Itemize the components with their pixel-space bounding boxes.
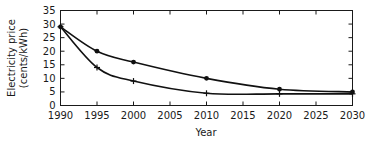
- x-tick-label: 2020: [267, 110, 292, 121]
- data-point-circle-marker: [204, 76, 209, 81]
- y-tick-label: 35: [43, 5, 56, 16]
- x-axis-title-label: Year: [194, 127, 217, 138]
- x-tick-label: 2015: [230, 110, 255, 121]
- data-point-circle-marker: [95, 49, 100, 54]
- y-tick-label: 25: [43, 32, 56, 43]
- y-axis-title-label-line2: (cents/kWh): [18, 28, 29, 88]
- x-tick-label: 2000: [121, 110, 146, 121]
- y-tick-label: 15: [43, 59, 56, 70]
- x-axis-title: Year: [194, 127, 217, 138]
- y-tick-label: 10: [43, 73, 56, 84]
- x-tick-label: 2025: [303, 110, 328, 121]
- x-tick-label: 2005: [157, 110, 182, 121]
- y-axis-tick-labels: 05101520253035: [43, 5, 56, 111]
- y-axis-title: Electricity price (cents/kWh): [6, 19, 29, 97]
- data-series-group: [58, 24, 356, 97]
- y-tick-label: 0: [49, 100, 55, 111]
- data-point-circle-marker: [131, 60, 136, 65]
- data-point-plus-marker: [204, 90, 210, 96]
- series-line-upper-curve: [61, 27, 353, 92]
- electricity-price-line-chart: 199019952000200520102015202020252030 051…: [0, 0, 367, 142]
- y-axis-title-label-line1: Electricity price: [6, 19, 17, 97]
- x-axis-tick-labels: 199019952000200520102015202020252030: [48, 110, 365, 121]
- y-tick-label: 5: [49, 86, 55, 97]
- y-tick-label: 30: [43, 19, 56, 30]
- series-line-lower-curve: [61, 27, 353, 95]
- x-tick-label: 2030: [340, 110, 365, 121]
- x-tick-label: 1995: [84, 110, 109, 121]
- chart-figure: 199019952000200520102015202020252030 051…: [0, 0, 367, 142]
- y-tick-label: 20: [43, 46, 56, 57]
- x-tick-label: 1990: [48, 110, 73, 121]
- x-tick-label: 2010: [194, 110, 219, 121]
- data-point-plus-marker: [131, 78, 137, 84]
- data-point-plus-marker: [277, 91, 283, 97]
